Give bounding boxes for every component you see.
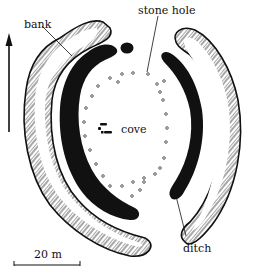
scale-bar: 20 m (14, 248, 80, 266)
north-arrow-icon (6, 33, 13, 132)
bank-east (175, 28, 240, 244)
cove-stones (98, 123, 112, 134)
ditch-leader-line (176, 196, 186, 236)
stone-hole-leader-line (147, 16, 158, 72)
ditch-east (161, 52, 203, 199)
scale-label: 20 m (34, 248, 62, 261)
label-ditch: ditch (183, 242, 211, 255)
label-stone-hole: stone hole (138, 4, 196, 17)
label-bank: bank (24, 18, 52, 31)
label-cove: cove (121, 123, 147, 136)
ditch-terminal (121, 43, 134, 54)
site-plan: bank stone hole cove ditch 20 m (0, 0, 256, 272)
